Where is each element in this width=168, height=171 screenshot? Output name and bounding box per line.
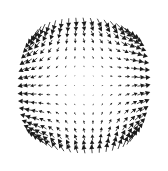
arrow-shaft bbox=[33, 85, 36, 86]
quiver-arrow bbox=[84, 85, 85, 86]
arrow-shaft bbox=[66, 66, 67, 67]
arrow-shaft bbox=[84, 138, 85, 141]
arrow-shaft bbox=[75, 114, 76, 115]
quiver-arrow bbox=[84, 95, 85, 96]
quiver-vector-field bbox=[0, 0, 168, 171]
arrow-shaft bbox=[102, 104, 103, 105]
arrow-shaft bbox=[83, 31, 84, 34]
arrow-shaft bbox=[102, 95, 103, 96]
quiver-arrow bbox=[84, 76, 85, 77]
quiver-arrow bbox=[74, 85, 75, 86]
arrow-shaft bbox=[93, 66, 94, 67]
arrow-shaft bbox=[102, 113, 103, 114]
arrow-shaft bbox=[132, 86, 135, 87]
arrow-shaft bbox=[92, 56, 93, 57]
arrow-shaft bbox=[110, 66, 111, 67]
arrow-shaft bbox=[66, 76, 67, 77]
arrow-shaft bbox=[66, 104, 67, 105]
quiver-arrow bbox=[93, 85, 94, 86]
arrow-shaft bbox=[101, 66, 102, 67]
arrow-shaft bbox=[110, 95, 111, 96]
arrow-shaft bbox=[57, 75, 58, 76]
arrow-shaft bbox=[66, 56, 67, 57]
arrow-shaft bbox=[57, 104, 58, 105]
quiver-plot-figure bbox=[0, 0, 168, 171]
arrow-shaft bbox=[75, 104, 76, 105]
